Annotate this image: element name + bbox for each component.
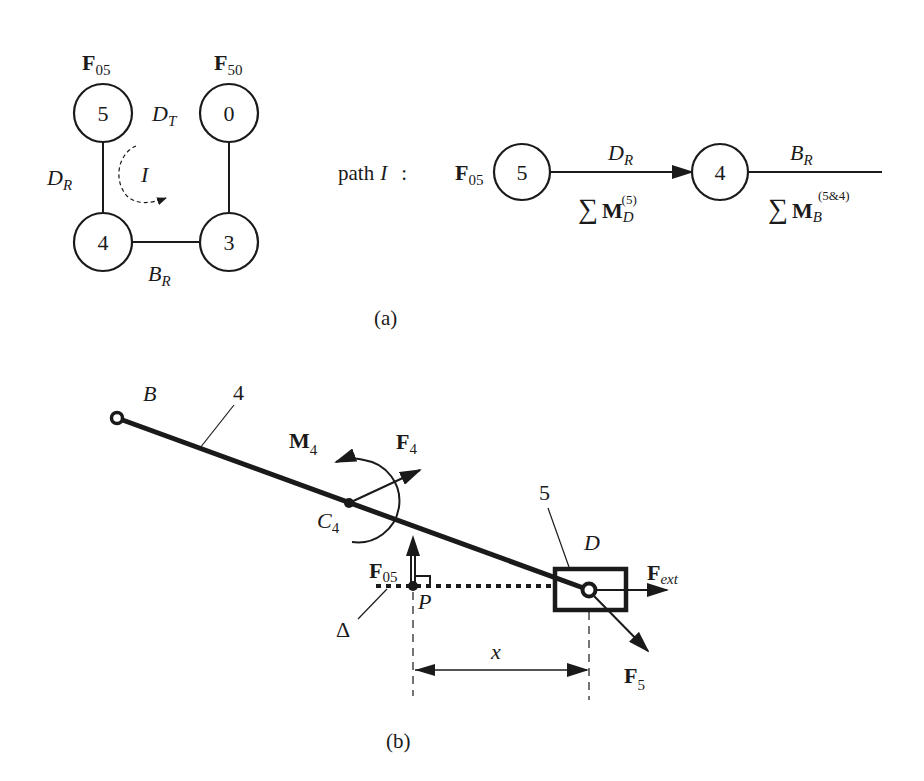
caption-b: (b)	[386, 729, 411, 753]
force-F05-label: F05	[82, 50, 110, 78]
leader-slider-5	[548, 508, 569, 567]
figure-canvas: 5 0 4 3 F05 F50 DT DR BR I pathI: F05 5 …	[0, 0, 924, 781]
label-slider-5: 5	[539, 480, 550, 505]
edge-BR-label: BR	[148, 261, 171, 289]
right-angle-mark	[416, 576, 430, 584]
node-3-label: 3	[224, 230, 235, 255]
path-node-4-label: 4	[715, 160, 726, 185]
label-Delta: Δ	[336, 617, 350, 642]
node-5-label: 5	[98, 101, 109, 126]
path-edge2-bottom-label: ∑MB(5&4)	[768, 188, 850, 225]
path-prefix: pathI:	[338, 161, 407, 185]
force-F4-arrow	[349, 470, 420, 503]
label-Fext: Fext	[647, 560, 679, 587]
label-P: P	[417, 589, 431, 614]
edge-DT-label: DT	[151, 101, 178, 129]
leader-delta	[358, 589, 387, 619]
force-F05-arrowhead-icon	[406, 535, 420, 556]
edge-DR-label: DR	[46, 165, 72, 193]
force-F5-arrow	[594, 596, 648, 651]
path-edge1-top-label: DR	[607, 140, 633, 168]
node-4-label: 4	[98, 230, 109, 255]
label-F05: F05	[369, 558, 397, 585]
label-D: D	[583, 530, 600, 555]
panel-a-graph: 5 0 4 3 F05 F50 DT DR BR I	[46, 50, 258, 289]
path-edge1-bottom-label: ∑MD(5)	[578, 192, 637, 225]
label-x: x	[490, 639, 501, 664]
label-M4: M4	[289, 428, 318, 458]
joint-B	[112, 413, 123, 424]
label-C4: C4	[317, 508, 340, 536]
path-node-5-label: 5	[517, 160, 528, 185]
label-F5: F5	[624, 663, 645, 693]
joint-D	[583, 584, 596, 597]
node-0-label: 0	[224, 101, 235, 126]
panel-b-mechanism: B 4 M4 F4 C4 5 D Fext F05 P Δ x F5	[112, 380, 679, 700]
loop-I-label: I	[140, 162, 150, 187]
force-F50-label: F50	[214, 50, 242, 78]
path-start-force: F05	[455, 160, 483, 188]
path-edge2-top-label: BR	[790, 140, 813, 168]
caption-a: (a)	[374, 306, 397, 330]
label-F4: F4	[396, 429, 417, 457]
label-B: B	[143, 381, 156, 406]
panel-a-path: pathI: F05 5 4 DR BR ∑MD(5) ∑MB(5&4)	[338, 140, 882, 225]
label-link-4: 4	[233, 380, 244, 405]
point-P	[408, 581, 418, 591]
leader-link-4	[200, 405, 234, 448]
